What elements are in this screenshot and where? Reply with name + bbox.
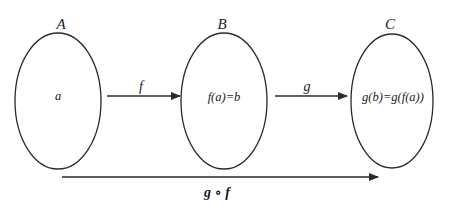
element-c: g(b)=g(f(a)) — [362, 91, 424, 104]
arrow-g-label: g — [304, 80, 311, 94]
set-c-label: C — [385, 17, 395, 32]
arrow-g-compose-f-label: g ∘ f — [204, 186, 230, 200]
set-b-label: B — [217, 17, 226, 32]
element-a: a — [55, 90, 61, 103]
element-b: f(a)=b — [208, 91, 241, 104]
set-a-label: A — [56, 17, 65, 32]
composition-diagram — [0, 0, 449, 213]
arrow-f-label: f — [139, 80, 143, 94]
